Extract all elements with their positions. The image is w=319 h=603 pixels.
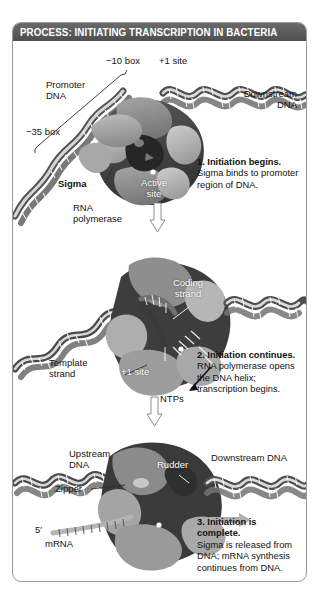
downstream-dna-helix-2: [227, 295, 307, 319]
figure-container: PROCESS: INITIATING TRANSCRIPTION IN BAC…: [12, 22, 307, 582]
step-3-text: 3. Initiation is complete. Sigma is rele…: [197, 517, 301, 574]
upstream-dna-label: Upstream DNA: [69, 448, 110, 470]
five-prime-label: 5′: [35, 524, 42, 535]
step-2-body: RNA polymerase opens the DNA helix; tran…: [197, 361, 295, 394]
coding-strand-label: Coding strand: [159, 277, 217, 299]
downstream-dna-label: Downstream DNA: [213, 88, 297, 110]
panel-step-2: Coding strand Template strand +1 site NT…: [13, 229, 307, 421]
minus-35-box-label: −35 box: [26, 126, 60, 137]
step-1-heading: 1. Initiation begins.: [197, 157, 301, 168]
template-strand-label: Template strand: [49, 357, 88, 379]
plus-1-site-label-2: +1 site: [121, 366, 149, 377]
active-site-label: Active site: [126, 177, 182, 199]
promoter-dna-label: Promoter DNA: [46, 79, 85, 101]
sigma-label: Sigma: [58, 178, 87, 189]
panel-step-1: Promoter DNA −10 box −35 box +1 site Dow…: [13, 41, 307, 229]
step-2-text: 2. Initiation continues. RNA polymerase …: [197, 350, 301, 396]
downstream-dna-label-3: Downstream DNA: [211, 452, 287, 463]
zipper-shape: [133, 478, 149, 488]
panel-step-3: Upstream DNA Zipper Rudder Downstream DN…: [13, 421, 307, 582]
ntps-label: NTPs: [160, 393, 184, 404]
downstream-dna-helix-3: [207, 474, 307, 498]
figure-title-bar: PROCESS: INITIATING TRANSCRIPTION IN BAC…: [13, 23, 307, 41]
step-1-body: Sigma binds to promoter region of DNA.: [197, 168, 298, 189]
page-title: PROCESS: INITIATING TRANSCRIPTION IN BAC…: [20, 26, 277, 38]
rna-polymerase-label: RNA polymerase: [73, 202, 122, 224]
step-1-text: 1. Initiation begins. Sigma binds to pro…: [197, 157, 301, 191]
rudder-label: Rudder: [157, 459, 188, 470]
step-3-heading: 3. Initiation is complete.: [197, 517, 301, 540]
plus-1-site-label: +1 site: [159, 55, 187, 66]
active-site-marker-3: [156, 522, 161, 527]
step-3-body: Sigma is released from DNA; mRNA synthes…: [197, 540, 292, 573]
active-site-marker: [150, 169, 155, 174]
active-site-marker-2: [178, 346, 183, 351]
zipper-label: Zipper: [55, 483, 82, 494]
minus-10-box-label: −10 box: [106, 55, 140, 66]
step-2-heading: 2. Initiation continues.: [197, 350, 301, 361]
mrna-label: mRNA: [45, 538, 73, 549]
